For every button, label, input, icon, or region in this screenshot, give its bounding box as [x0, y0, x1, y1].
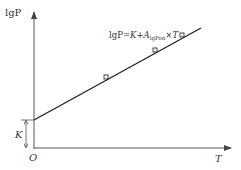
intercept-label: K [14, 129, 23, 140]
line-equation: lgP=K+AlgPon×T [109, 30, 179, 42]
diagram-canvas: lgP lgP=K+AlgPon×T K O T [0, 0, 241, 170]
origin-label: O [29, 152, 37, 163]
data-line [34, 28, 201, 120]
data-point-marker [180, 33, 184, 37]
data-point-marker [104, 75, 108, 79]
x-axis-label: T [215, 153, 223, 164]
y-axis-label: lgP [5, 7, 22, 18]
data-point-marker [153, 48, 157, 52]
